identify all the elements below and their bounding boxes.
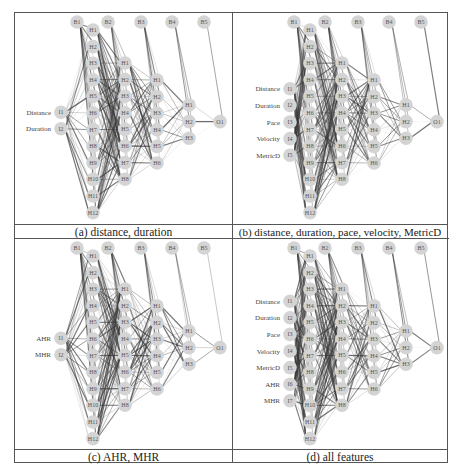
hidden-l3-node-h4: H4 <box>150 349 164 363</box>
svg-text:I5: I5 <box>288 365 293 371</box>
svg-text:H8: H8 <box>121 176 128 182</box>
input-feature-label: Pace <box>267 119 280 127</box>
svg-text:B2: B2 <box>104 19 111 25</box>
svg-text:I1: I1 <box>59 109 64 115</box>
hidden-l2-node-h4: H4 <box>335 332 349 346</box>
hidden-l4-node-h3: H3 <box>399 131 413 145</box>
svg-text:H2: H2 <box>185 345 192 351</box>
svg-text:B4: B4 <box>385 245 392 251</box>
hidden-l2-node-h5: H5 <box>335 349 349 363</box>
svg-text:I2: I2 <box>288 102 293 108</box>
hidden-l3-node-h4: H4 <box>367 349 381 363</box>
hidden-l4-node-h2: H2 <box>182 115 196 129</box>
output-node-o1: O1 <box>430 341 444 355</box>
svg-text:B2: B2 <box>321 19 328 25</box>
hidden-l2-node-h5: H5 <box>335 123 349 137</box>
bias-node-b5: B5 <box>197 241 211 255</box>
hidden-l4-node-h2: H2 <box>182 341 196 355</box>
bias-node-b3: B3 <box>134 15 148 29</box>
hidden-l2-node-h5: H5 <box>118 123 132 137</box>
hidden-l1-node-h11: H11 <box>86 189 100 203</box>
svg-text:H2: H2 <box>185 119 192 125</box>
svg-text:H2: H2 <box>153 320 160 326</box>
svg-text:H1: H1 <box>402 102 409 108</box>
hidden-l4-node-h1: H1 <box>399 98 413 112</box>
svg-text:O1: O1 <box>216 119 223 125</box>
svg-text:O1: O1 <box>433 345 440 351</box>
svg-text:I2: I2 <box>59 352 64 358</box>
hidden-l3-node-h6: H6 <box>367 156 381 170</box>
hidden-l1-node-h8: H8 <box>86 365 100 379</box>
input-feature-label: AHR <box>36 335 51 343</box>
svg-text:B1: B1 <box>73 19 80 25</box>
caption-c: (c) AHR, MHR <box>15 449 232 463</box>
svg-text:H9: H9 <box>89 386 96 392</box>
hidden-l1-node-h4: H4 <box>86 73 100 87</box>
svg-text:H2: H2 <box>121 77 128 83</box>
svg-text:H2: H2 <box>89 44 96 50</box>
hidden-l3-node-h5: H5 <box>367 366 381 380</box>
network-diagram-d: B1B2B3B4B5I1I2I3I4I5I6I7H1H2H3H4H5H6H7H8… <box>232 239 449 450</box>
hidden-l1-node-h9: H9 <box>303 382 317 396</box>
svg-text:H1: H1 <box>370 77 377 83</box>
hidden-l2-node-h2: H2 <box>118 299 132 313</box>
svg-text:H3: H3 <box>370 336 377 342</box>
svg-text:H4: H4 <box>89 303 96 309</box>
hidden-l4-node-h2: H2 <box>399 341 413 355</box>
hidden-l1-node-h12: H12 <box>86 206 100 220</box>
input-feature-label: MetricD <box>256 152 280 160</box>
hidden-l1-node-h6: H6 <box>303 106 317 120</box>
svg-text:H7: H7 <box>338 386 345 392</box>
hidden-l2-node-h8: H8 <box>335 172 349 186</box>
input-feature-label: MHR <box>264 397 280 405</box>
svg-text:H9: H9 <box>306 386 313 392</box>
svg-text:H6: H6 <box>338 143 345 149</box>
hidden-l1-node-h5: H5 <box>303 90 317 104</box>
svg-text:H4: H4 <box>338 336 345 342</box>
hidden-l1-node-h9: H9 <box>303 156 317 170</box>
svg-text:H5: H5 <box>89 319 96 325</box>
svg-text:H6: H6 <box>370 386 377 392</box>
input-feature-label: Duration <box>255 102 280 110</box>
svg-text:B1: B1 <box>73 245 80 251</box>
svg-text:H5: H5 <box>153 143 160 149</box>
hidden-l3-node-h3: H3 <box>150 106 164 120</box>
svg-text:B3: B3 <box>137 19 144 25</box>
hidden-l2-node-h2: H2 <box>335 73 349 87</box>
svg-text:H7: H7 <box>338 160 345 166</box>
hidden-l4-node-h3: H3 <box>399 357 413 371</box>
hidden-l1-node-h10: H10 <box>86 173 100 187</box>
svg-text:H2: H2 <box>370 320 377 326</box>
hidden-l1-node-h2: H2 <box>86 40 100 54</box>
hidden-l1-node-h5: H5 <box>303 316 317 330</box>
hidden-l3-node-h6: H6 <box>150 382 164 396</box>
hidden-l4-node-h1: H1 <box>399 324 413 338</box>
svg-text:H1: H1 <box>185 102 192 108</box>
hidden-l1-node-h4: H4 <box>303 73 317 87</box>
input-feature-label: Duration <box>255 314 280 322</box>
hidden-l2-node-h8: H8 <box>335 398 349 412</box>
hidden-l1-node-h7: H7 <box>303 349 317 363</box>
svg-text:H4: H4 <box>370 353 377 359</box>
hidden-l3-node-h4: H4 <box>367 123 381 137</box>
bias-node-b1: B1 <box>70 15 84 29</box>
svg-text:I1: I1 <box>288 86 293 92</box>
input-node-i5: I5 <box>283 361 297 375</box>
svg-text:H2: H2 <box>370 94 377 100</box>
svg-text:B5: B5 <box>417 245 424 251</box>
panel-b-network: B1B2B3B4B5I1I2I3I4I5H1H2H3H4H5H6H7H8H9H1… <box>232 13 449 224</box>
svg-text:H4: H4 <box>153 353 160 359</box>
hidden-l1-node-h7: H7 <box>303 123 317 137</box>
svg-text:H1: H1 <box>338 286 345 292</box>
network-diagram-a: B1B2B3B4B5I1I2H1H2H3H4H5H6H7H8H9H10H11H1… <box>15 13 232 224</box>
input-feature-label: Distance <box>256 85 281 93</box>
svg-text:H11: H11 <box>305 193 315 199</box>
bias-node-b2: B2 <box>101 15 115 29</box>
svg-text:B3: B3 <box>354 19 361 25</box>
hidden-l1-node-h8: H8 <box>303 139 317 153</box>
svg-text:H4: H4 <box>306 303 313 309</box>
hidden-l1-node-h8: H8 <box>86 139 100 153</box>
svg-text:H7: H7 <box>89 353 96 359</box>
svg-text:H3: H3 <box>185 361 192 367</box>
svg-text:H1: H1 <box>89 27 96 33</box>
